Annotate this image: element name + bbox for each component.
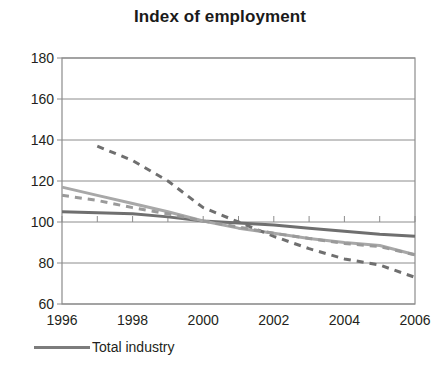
series-line-0: [62, 212, 415, 237]
x-axis-tick-label: 2004: [314, 312, 374, 328]
y-axis-tick-label: 160: [10, 91, 54, 107]
y-axis-tick-label: 60: [10, 296, 54, 312]
series-line-3: [62, 195, 415, 254]
data-series-layer: [62, 146, 415, 277]
x-axis-tick-label: 2002: [244, 312, 304, 328]
chart-legend: Total industry: [34, 339, 174, 355]
x-axis-tick-label: 2000: [173, 312, 233, 328]
y-axis-tick-label: 100: [10, 214, 54, 230]
legend-label-total-industry: Total industry: [92, 339, 174, 355]
x-axis-tick-label: 1996: [32, 312, 92, 328]
gridlines: [57, 58, 415, 304]
y-axis-tick-label: 80: [10, 255, 54, 271]
chart-container: Index of employment 1801601401201008060 …: [0, 0, 440, 365]
x-axis-tick-label: 1998: [103, 312, 163, 328]
x-axis-tick-label: 2006: [385, 312, 440, 328]
plot-area: [0, 0, 440, 365]
y-axis-tick-label: 180: [10, 50, 54, 66]
y-axis-tick-label: 140: [10, 132, 54, 148]
legend-line-swatch-total-industry: [34, 346, 90, 349]
y-axis-tick-label: 120: [10, 173, 54, 189]
series-line-2: [97, 146, 415, 277]
